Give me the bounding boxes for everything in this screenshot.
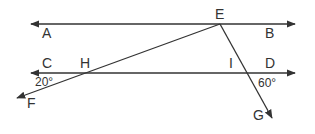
angle-20: 20° (35, 75, 53, 89)
label-c: C (42, 55, 52, 71)
label-b: B (265, 25, 274, 41)
angle-60: 60° (258, 76, 276, 90)
label-f: F (27, 95, 36, 111)
label-e: E (215, 6, 224, 22)
label-h: H (80, 55, 90, 71)
label-g: G (253, 107, 264, 123)
geometry-diagram: A B E C H I D F G 20° 60° (0, 0, 315, 134)
label-i: I (229, 55, 233, 71)
label-a: A (42, 25, 52, 41)
label-d: D (265, 55, 275, 71)
